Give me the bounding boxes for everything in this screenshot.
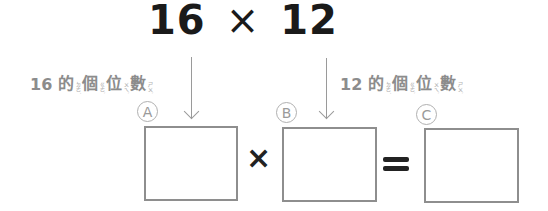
label-char: 數	[440, 70, 456, 94]
equals-sign-top-bar	[383, 157, 409, 162]
arrow-head-icon	[184, 104, 200, 120]
zhuyin-annotation: ㄕㄨˋ	[457, 82, 463, 95]
zhuyin-annotation: ㄉㄜ˙	[385, 82, 391, 95]
label-char: 個	[392, 70, 408, 94]
multiply-sign: ×	[246, 140, 271, 175]
zhuyin-annotation: ㄍㄜˋ	[99, 82, 105, 95]
title-operator: ×	[226, 0, 261, 43]
marker-a-circle: A	[137, 101, 158, 122]
equals-sign-bottom-bar	[383, 166, 409, 171]
marker-c-circle: C	[416, 104, 437, 125]
zhuyin-annotation: ㄕㄨˋ	[147, 82, 153, 95]
title-left-operand: 16	[148, 0, 206, 43]
answer-box-b[interactable]	[282, 127, 377, 202]
label-char: 位	[106, 70, 122, 94]
answer-box-c[interactable]	[424, 128, 519, 203]
label-16-ones-digit: 16 的ㄉㄜ˙ 個ㄍㄜˋ 位ㄨㄟˋ 數ㄕㄨˋ	[30, 70, 154, 94]
zhuyin-annotation: ㄍㄜˋ	[409, 82, 415, 95]
label-char: 的	[368, 70, 384, 94]
arrow-head-icon	[319, 104, 335, 120]
label-number: 16	[30, 75, 52, 94]
label-12-ones-digit: 12 的ㄉㄜ˙ 個ㄍㄜˋ 位ㄨㄟˋ 數ㄕㄨˋ	[340, 70, 464, 94]
title-right-operand: 12	[280, 0, 338, 43]
zhuyin-annotation: ㄨㄟˋ	[123, 82, 129, 95]
label-char: 數	[130, 70, 146, 94]
answer-box-a[interactable]	[144, 126, 238, 201]
label-char: 個	[82, 70, 98, 94]
zhuyin-annotation: ㄉㄜ˙	[75, 82, 81, 95]
zhuyin-annotation: ㄨㄟˋ	[433, 82, 439, 95]
label-number: 12	[340, 75, 362, 94]
label-char: 位	[416, 70, 432, 94]
marker-b-circle: B	[276, 102, 297, 123]
label-char: 的	[58, 70, 74, 94]
multiplication-title: 16 × 12	[148, 0, 328, 44]
